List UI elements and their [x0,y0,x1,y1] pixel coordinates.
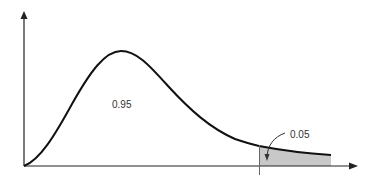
x-axis-arrow-icon [349,163,358,170]
tail-area-label: 0.05 [290,129,310,140]
tail-region [259,146,331,166]
density-curve [24,51,331,166]
density-chart: 0.95 0.05 [0,0,367,183]
y-axis-arrow-icon [21,11,28,19]
center-area-label: 0.95 [112,99,132,110]
